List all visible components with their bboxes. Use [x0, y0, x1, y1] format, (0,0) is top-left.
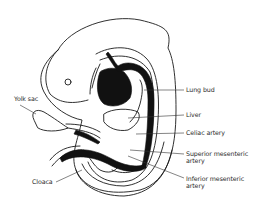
eye [65, 79, 71, 85]
label-superior-mesenteric-artery: Superior mesenteric artery [186, 150, 248, 165]
leader-sma [130, 150, 184, 154]
gut-band [60, 150, 146, 172]
embryo-diagram: Lung bud Liver Celiac artery Superior me… [0, 0, 258, 209]
label-lung-bud: Lung bud [186, 86, 215, 93]
label-ima-line2: artery [186, 182, 244, 189]
label-sma-line2: artery [186, 157, 248, 164]
label-inferior-mesenteric-artery: Inferior mesenteric artery [186, 175, 244, 190]
yolk-sac-shape [33, 110, 68, 131]
label-celiac-artery: Celiac artery [186, 129, 225, 136]
label-yolk-sac: Yolk sac [14, 95, 38, 102]
label-cloaca: Cloaca [32, 178, 53, 185]
leader-celiac [136, 133, 184, 134]
liver-shape [104, 109, 139, 130]
heart [97, 68, 131, 106]
label-ima-line1: Inferior mesenteric [186, 175, 244, 182]
label-sma-line1: Superior mesenteric [186, 150, 248, 157]
head-contour [46, 50, 88, 102]
label-liver: Liver [186, 111, 201, 118]
leader-yolk-sac [20, 105, 36, 114]
